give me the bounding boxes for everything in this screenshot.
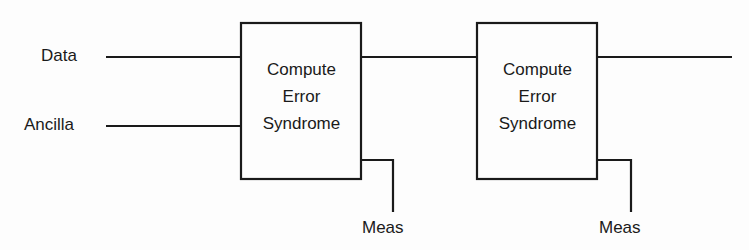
syndrome-block-2-text: Compute Error Syndrome	[477, 56, 598, 137]
syndrome-block-1-text: Compute Error Syndrome	[241, 56, 362, 137]
block-2-line-3: Syndrome	[477, 110, 598, 137]
block-1-line-3: Syndrome	[241, 110, 362, 137]
data-label: Data	[41, 46, 77, 66]
block-1-line-1: Compute	[241, 56, 362, 83]
meas-label-2: Meas	[599, 218, 641, 238]
block-1-line-2: Error	[241, 83, 362, 110]
meas-wire-2	[597, 160, 631, 212]
block-2-line-1: Compute	[477, 56, 598, 83]
ancilla-label: Ancilla	[24, 115, 74, 135]
meas-wire-1	[361, 160, 393, 212]
diagram-wires	[0, 0, 749, 250]
error-syndrome-diagram: Data Ancilla Compute Error Syndrome Comp…	[0, 0, 749, 250]
meas-label-1: Meas	[362, 218, 404, 238]
block-2-line-2: Error	[477, 83, 598, 110]
